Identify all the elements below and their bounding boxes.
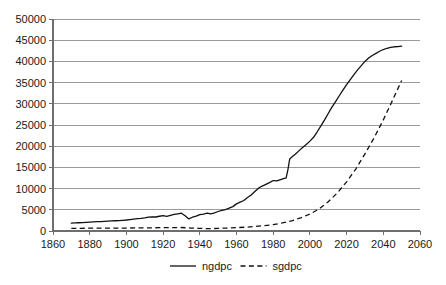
x-tick-label-1860: 1860 [41,238,65,250]
legend-label-sgdpc: sgdpc [273,260,303,272]
x-tick-label-2000: 2000 [298,238,322,250]
x-tick-label-2040: 2040 [371,238,395,250]
x-tick-label-1960: 1960 [224,238,248,250]
y-tick-label-25000: 25000 [15,119,46,131]
y-tick-label-40000: 40000 [15,55,46,67]
x-tick-label-1940: 1940 [188,238,212,250]
y-tick-label-15000: 15000 [15,161,46,173]
x-tick-label-1900: 1900 [114,238,138,250]
y-tick-label-20000: 20000 [15,140,46,152]
legend-label-ngdpc: ngdpc [202,260,232,272]
chart-container: 0500010000150002000025000300003500040000… [0,0,446,285]
y-tick-label-50000: 50000 [15,13,46,25]
x-tick-label-1880: 1880 [77,238,101,250]
x-tick-label-1920: 1920 [151,238,175,250]
y-tick-label-10000: 10000 [15,183,46,195]
y-tick-label-30000: 30000 [15,98,46,110]
y-tick-label-5000: 5000 [22,204,46,216]
x-tick-label-2060: 2060 [408,238,432,250]
x-tick-label-2020: 2020 [334,238,358,250]
line-chart: 0500010000150002000025000300003500040000… [0,0,446,285]
y-tick-label-0: 0 [40,225,46,237]
x-tick-label-1980: 1980 [261,238,285,250]
y-tick-label-45000: 45000 [15,34,46,46]
y-tick-label-35000: 35000 [15,77,46,89]
